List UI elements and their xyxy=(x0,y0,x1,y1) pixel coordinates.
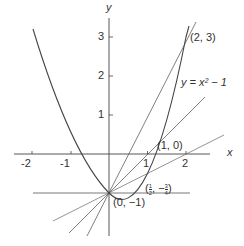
point-label-0-neg1: (0, −1) xyxy=(113,197,145,208)
x-tick-label: -2 xyxy=(21,158,31,169)
y-tick-label: 1 xyxy=(98,109,104,120)
x-axis-label: x xyxy=(227,147,233,158)
point-label-half: (12, −34) xyxy=(145,183,172,196)
paren-close: ) xyxy=(168,182,172,194)
point-label-1-0: (1, 0) xyxy=(157,140,183,151)
parabola-curve xyxy=(33,26,189,200)
separator: , − xyxy=(152,182,165,194)
y-tick-label: 3 xyxy=(98,31,104,42)
point-label-2-3: (2, 3) xyxy=(190,32,216,43)
x-tick-label: -1 xyxy=(60,158,70,169)
curve-equation-label: y = x² − 1 xyxy=(181,77,227,88)
x-tick-label: 2 xyxy=(182,158,188,169)
y-tick-label: 2 xyxy=(98,70,104,81)
y-axis-label: y xyxy=(106,2,112,13)
x-tick-label: 1 xyxy=(143,158,149,169)
